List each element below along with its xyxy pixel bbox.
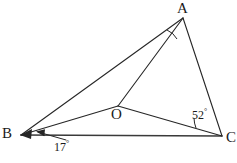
degree-symbol-c: ° <box>204 107 207 116</box>
angle-label-c-value: 52 <box>192 108 204 122</box>
geometry-canvas <box>0 0 237 163</box>
degree-symbol-b: ° <box>66 139 69 148</box>
angle-label-b-value: 17 <box>54 140 66 154</box>
angle-label-b: 17° <box>54 140 69 153</box>
geometry-figure: A B C O 17° 52° <box>0 0 237 163</box>
vertex-label-o: O <box>111 107 122 122</box>
vertex-label-b: B <box>2 126 12 141</box>
vertex-label-a: A <box>177 1 188 16</box>
vertex-label-c: C <box>226 130 236 145</box>
angle-label-c: 52° <box>192 108 207 121</box>
segment-BO <box>21 106 118 135</box>
segment-AO <box>118 18 183 106</box>
